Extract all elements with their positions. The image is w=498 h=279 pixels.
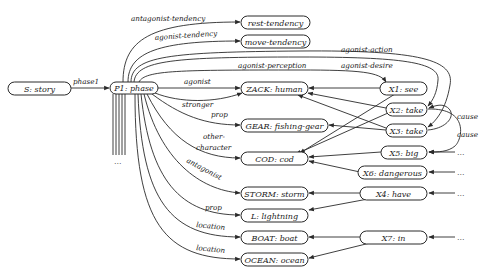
svg-text:X3: take: X3: take: [389, 127, 424, 136]
node-x6: X6: dangerous: [358, 166, 427, 179]
label-location-boat: location: [196, 220, 226, 232]
svg-text:P1: phase: P1: phase: [113, 84, 154, 93]
label-agonist-desire: agonist-desire: [341, 61, 393, 70]
edge-agonist-tendency: [128, 41, 240, 82]
node-phase: P1: phase: [110, 82, 158, 94]
label-other-character-2: character: [196, 143, 232, 152]
node-x5: X5: big: [381, 146, 427, 159]
svg-text:S: story: S: story: [24, 85, 56, 94]
ellipsis-x7: ...: [457, 233, 465, 242]
ellipsis-x5: ...: [457, 148, 465, 157]
svg-text:rest-tendency: rest-tendency: [248, 19, 304, 28]
svg-text:STORM: storm: STORM: storm: [244, 190, 305, 199]
svg-text:GEAR: fishing-gear: GEAR: fishing-gear: [246, 122, 325, 131]
label-other-character-1: other-: [203, 132, 226, 141]
edge-x6-cod: [309, 161, 360, 172]
node-gear: GEAR: fishing-gear: [241, 119, 328, 132]
edge-agonist-perception: [139, 70, 386, 82]
svg-text:X2: take: X2: take: [389, 106, 424, 115]
svg-text:ZACK: human: ZACK: human: [245, 85, 302, 94]
story-graph-diagram: phase1 antagonist-tendency agonist-tende…: [0, 0, 498, 279]
label-prop-gear: prop: [211, 110, 228, 119]
node-cod: COD: cod: [241, 152, 308, 165]
node-x4: X4: have: [360, 187, 427, 200]
svg-text:BOAT: boat: BOAT: boat: [250, 234, 298, 243]
label-stronger: stronger: [182, 100, 214, 109]
svg-text:X7: in: X7: in: [381, 234, 406, 243]
label-cause-2: cause: [457, 130, 478, 139]
node-story: S: story: [8, 82, 71, 95]
edge-cause-x2-x5: [428, 109, 461, 152]
label-antagonist: antagonist: [185, 156, 223, 182]
edge-x5-cod: [309, 152, 381, 157]
label-agonist: agonist: [184, 77, 211, 86]
node-storm: STORM: storm: [241, 187, 308, 200]
label-phase1: phase1: [73, 77, 99, 86]
node-boat: BOAT: boat: [241, 231, 308, 244]
label-prop-lightning: prop: [205, 203, 222, 212]
svg-text:X1: see: X1: see: [388, 85, 419, 94]
svg-text:X4: have: X4: have: [375, 190, 411, 199]
node-x3: X3: take: [386, 124, 427, 137]
label-antagonist-tendency: antagonist-tendency: [131, 14, 206, 23]
node-x2: X2: take: [386, 103, 427, 116]
label-cause-1: cause: [457, 112, 478, 121]
node-x1: X1: see: [380, 82, 427, 95]
edges: [71, 22, 461, 259]
svg-text:OCEAN: ocean: OCEAN: ocean: [244, 256, 304, 265]
node-zack: ZACK: human: [241, 82, 308, 95]
node-move-tendency: move-tendency: [241, 35, 310, 48]
node-rest-tendency: rest-tendency: [241, 16, 310, 29]
node-ocean: OCEAN: ocean: [241, 253, 308, 266]
label-agonist-action: agonist-action: [341, 45, 393, 54]
svg-text:X6: dangerous: X6: dangerous: [362, 169, 422, 178]
ellipsis-x6: ...: [457, 168, 465, 177]
svg-text:move-tendency: move-tendency: [245, 38, 307, 47]
svg-text:L: lightning: L: lightning: [250, 212, 298, 221]
ellipsis-fan: ...: [114, 157, 122, 166]
label-agonist-tendency: agonist-tendency: [155, 29, 219, 42]
edge-x2-zack: [308, 93, 386, 108]
svg-text:X5: big: X5: big: [389, 149, 419, 158]
node-x7: X7: in: [360, 231, 427, 244]
svg-text:COD: cod: COD: cod: [255, 155, 294, 164]
label-agonist-perception: agonist-perception: [238, 61, 307, 70]
label-location-ocean: location: [196, 243, 226, 255]
edge-x7-ocean: [309, 243, 370, 258]
ellipsis-x4: ...: [457, 189, 465, 198]
edge-x4-lightning: [309, 199, 368, 210]
node-lightning: L: lightning: [241, 209, 308, 222]
